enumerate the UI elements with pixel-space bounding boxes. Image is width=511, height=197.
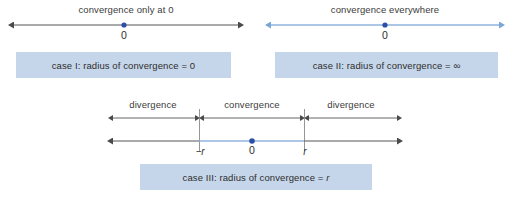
case-3-label-minus-r: −r: [182, 146, 218, 157]
radius-of-convergence-figure: convergence only at 0 0 case I: radius o…: [0, 0, 511, 197]
case-3-origin-dot: [249, 138, 255, 144]
case-3-caption-prefix: case III: radius of convergence =: [183, 172, 327, 183]
case-3-panel: divergence convergence divergence: [104, 96, 408, 197]
case-2-caption-value: ∞: [454, 60, 461, 71]
case-3-label-origin: 0: [234, 144, 270, 156]
case-2-caption-prefix: case II: radius of convergence =: [313, 60, 454, 71]
case-1-caption-box: case I: radius of convergence = 0: [16, 52, 231, 78]
case-2-origin-dot: [382, 22, 387, 27]
case-1-caption-prefix: case I: radius of convergence =: [52, 60, 190, 71]
case-3-caption-text: case III: radius of convergence = r: [183, 172, 330, 183]
case-1-caption-value: 0: [190, 60, 195, 71]
case-3-label-plus-r: r: [287, 146, 323, 157]
case-1-origin-label: 0: [106, 29, 142, 41]
case-2-origin-label: 0: [367, 29, 403, 41]
case-3-caption-box: case III: radius of convergence = r: [140, 164, 372, 190]
case-2-caption-box: case II: radius of convergence = ∞: [275, 52, 498, 78]
case-2-caption-text: case II: radius of convergence = ∞: [313, 60, 461, 71]
case-1-origin-dot: [121, 22, 126, 27]
case-3-caption-value: r: [326, 172, 329, 183]
case-1-panel: convergence only at 0 0 case I: radius o…: [0, 0, 252, 92]
case-2-panel: convergence everywhere 0 case II: radius…: [259, 0, 511, 92]
case-1-caption-text: case I: radius of convergence = 0: [52, 60, 196, 71]
case-2-header-label: convergence everywhere: [259, 4, 511, 15]
case-1-header-label: convergence only at 0: [0, 4, 252, 15]
